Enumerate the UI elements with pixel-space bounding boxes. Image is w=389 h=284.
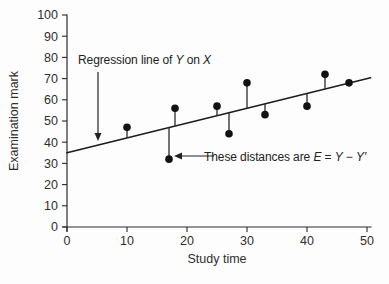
data-point (261, 111, 269, 119)
plot-area: 010203040500102030405060708090100Regress… (37, 8, 374, 248)
y-tick-label: 30 (44, 157, 58, 171)
x-tick-label: 40 (300, 234, 314, 248)
x-tick-label: 50 (360, 234, 374, 248)
data-point (123, 124, 131, 132)
y-tick-label: 60 (44, 93, 58, 107)
y-tick-label: 50 (44, 114, 58, 128)
residual-distance-label-text: These distances are E = Y − Y′ (204, 150, 367, 164)
regression-scatter-figure: 010203040500102030405060708090100Regress… (0, 0, 389, 284)
x-tick-label: 20 (180, 234, 194, 248)
data-point (165, 155, 173, 163)
regression-line-label-text: Regression line of Y on X (78, 53, 212, 67)
data-point (321, 71, 329, 79)
y-tick-label: 70 (44, 72, 58, 86)
y-tick-label: 80 (44, 51, 58, 65)
data-point (225, 130, 233, 138)
y-tick-label: 20 (44, 178, 58, 192)
residual-distance-label-arrowhead-icon (174, 153, 182, 160)
x-tick-label: 10 (120, 234, 134, 248)
x-tick-label: 30 (240, 234, 254, 248)
data-point (243, 79, 251, 87)
y-tick-label: 0 (51, 220, 58, 234)
regression-line-label-arrowhead-icon (95, 133, 102, 141)
data-point (213, 102, 221, 110)
data-point (345, 79, 353, 87)
y-tick-label: 90 (44, 30, 58, 44)
y-axis-label: Examination mark (7, 70, 21, 171)
data-point (171, 104, 179, 112)
y-tick-label: 10 (44, 199, 58, 213)
y-tick-label: 100 (37, 8, 58, 22)
scatter-plot: 010203040500102030405060708090100Regress… (0, 0, 389, 284)
y-tick-label: 40 (44, 136, 58, 150)
x-axis-label: Study time (187, 252, 246, 266)
x-tick-label: 0 (64, 234, 71, 248)
data-point (303, 102, 311, 110)
